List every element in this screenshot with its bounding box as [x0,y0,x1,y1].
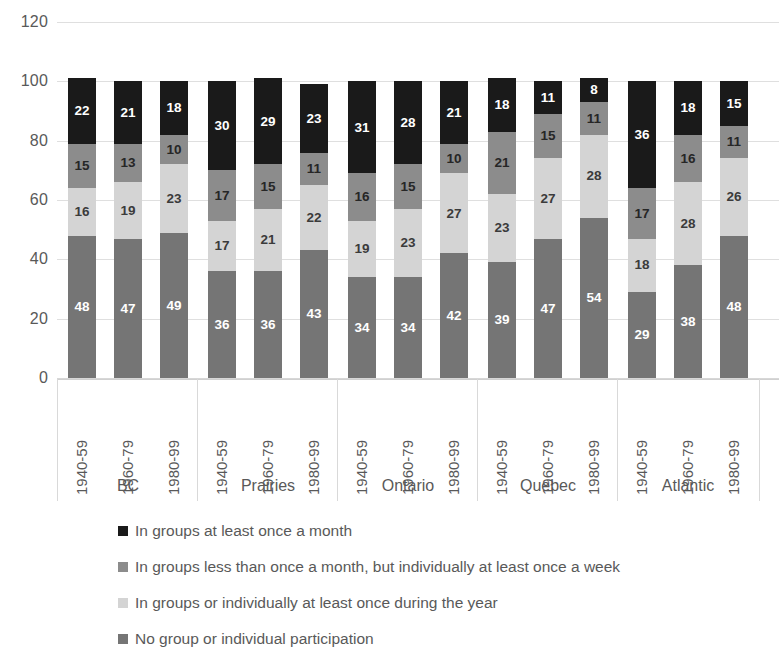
bar-segment[interactable]: 27 [534,158,562,238]
period-label: 1940-59 [208,383,236,475]
bar-ontario-1960-79[interactable]: 28152334 [394,81,422,378]
bar-segment[interactable]: 21 [254,209,282,271]
period-label: 1940-59 [488,383,516,475]
bar-quebec-1980-99[interactable]: 8112854 [580,78,608,378]
bar-segment[interactable]: 38 [674,265,702,378]
bar-quebec-1940-59[interactable]: 18212339 [488,78,516,378]
group-separator [197,379,198,501]
bar-prairies-1960-79[interactable]: 29152136 [254,78,282,378]
bar-segment[interactable]: 16 [68,188,96,235]
category-axis-line [57,379,779,380]
y-axis-tick-label: 60 [2,192,48,208]
bar-segment[interactable]: 47 [114,239,142,378]
bar-segment[interactable]: 18 [674,81,702,134]
bar-bc-1960-79[interactable]: 21131947 [114,81,142,378]
bar-segment[interactable]: 28 [580,135,608,218]
bar-segment[interactable]: 30 [208,81,236,170]
bar-segment[interactable]: 8 [580,78,608,102]
legend-swatch-icon [118,526,128,536]
bar-segment[interactable]: 36 [628,81,656,188]
legend-item[interactable]: In groups less than once a month, but in… [118,556,620,578]
bar-segment[interactable]: 22 [300,185,328,250]
period-label: 1960-79 [534,383,562,475]
bar-segment[interactable]: 54 [580,218,608,378]
bar-segment[interactable]: 28 [394,81,422,164]
bar-segment[interactable]: 11 [300,153,328,186]
bar-segment[interactable]: 29 [254,78,282,164]
stacked-bar-chart: 1201008060402002215164821131947181023493… [0,0,779,661]
bar-segment[interactable]: 43 [300,250,328,378]
bar-atlantic-1940-59[interactable]: 36171829 [628,81,656,378]
bar-segment[interactable]: 15 [254,164,282,209]
bar-segment[interactable]: 47 [534,239,562,378]
bar-segment[interactable]: 23 [394,209,422,277]
bar-segment[interactable]: 23 [488,194,516,262]
bar-segment[interactable]: 17 [208,170,236,220]
bar-segment[interactable]: 11 [534,81,562,114]
bar-bc-1940-59[interactable]: 22151648 [68,78,96,378]
legend-swatch-icon [118,634,128,644]
legend-item[interactable]: In groups at least once a month [118,520,352,542]
period-label: 1960-79 [674,383,702,475]
bar-quebec-1960-79[interactable]: 11152747 [534,81,562,378]
bar-segment[interactable]: 34 [394,277,422,378]
bar-segment[interactable]: 18 [160,81,188,134]
bar-segment[interactable]: 16 [674,135,702,182]
bar-segment[interactable]: 34 [348,277,376,378]
region-label-quebec: Quebec [488,478,608,494]
bar-segment[interactable]: 29 [628,292,656,378]
bar-segment[interactable]: 11 [720,126,748,159]
bar-segment[interactable]: 15 [68,144,96,189]
bar-segment[interactable]: 18 [488,78,516,131]
bar-segment[interactable]: 17 [208,221,236,271]
bar-segment[interactable]: 23 [300,84,328,152]
bar-segment[interactable]: 10 [160,135,188,165]
bar-segment[interactable]: 18 [628,239,656,292]
bar-segment[interactable]: 21 [488,132,516,194]
bar-segment[interactable]: 31 [348,81,376,173]
bar-segment[interactable]: 48 [720,236,748,378]
bar-ontario-1980-99[interactable]: 21102742 [440,81,468,378]
period-label: 1960-79 [394,383,422,475]
bar-segment[interactable]: 21 [114,81,142,143]
bar-segment[interactable]: 23 [160,164,188,232]
legend-item[interactable]: No group or individual participation [118,628,374,650]
bar-bc-1980-99[interactable]: 18102349 [160,81,188,378]
bar-segment[interactable]: 36 [254,271,282,378]
bar-segment[interactable]: 28 [674,182,702,265]
bar-segment[interactable]: 21 [440,81,468,143]
bar-segment[interactable]: 15 [534,114,562,159]
bar-prairies-1980-99[interactable]: 23112243 [300,84,328,378]
period-label: 1980-99 [300,383,328,475]
bar-segment[interactable]: 48 [68,236,96,378]
bar-segment[interactable]: 26 [720,158,748,235]
bar-segment[interactable]: 15 [720,81,748,126]
bar-segment[interactable]: 19 [348,221,376,277]
y-axis-tick-label: 20 [2,311,48,327]
plot-area: 1201008060402002215164821131947181023493… [0,0,779,400]
y-axis-tick-label: 80 [2,133,48,149]
bar-segment[interactable]: 10 [440,144,468,174]
bar-segment[interactable]: 19 [114,182,142,238]
period-label: 1980-99 [580,383,608,475]
bar-segment[interactable]: 36 [208,271,236,378]
bar-segment[interactable]: 49 [160,233,188,378]
bar-atlantic-1980-99[interactable]: 15112648 [720,81,748,378]
bar-atlantic-1960-79[interactable]: 18162838 [674,81,702,378]
legend-item[interactable]: In groups or individually at least once … [118,592,498,614]
bar-segment[interactable]: 15 [394,164,422,209]
bar-segment[interactable]: 17 [628,188,656,238]
bar-ontario-1940-59[interactable]: 31161934 [348,81,376,378]
period-label: 1980-99 [160,383,188,475]
bar-segment[interactable]: 27 [440,173,468,253]
bar-segment[interactable]: 16 [348,173,376,220]
bar-segment[interactable]: 39 [488,262,516,378]
bar-segment[interactable]: 11 [580,102,608,135]
bar-segment[interactable]: 22 [68,78,96,143]
period-label: 1980-99 [720,383,748,475]
region-label-atlantic: Atlantic [628,478,748,494]
bar-segment[interactable]: 13 [114,144,142,183]
legend-label: In groups or individually at least once … [135,595,498,611]
bar-segment[interactable]: 42 [440,253,468,378]
bar-prairies-1940-59[interactable]: 30171736 [208,81,236,378]
